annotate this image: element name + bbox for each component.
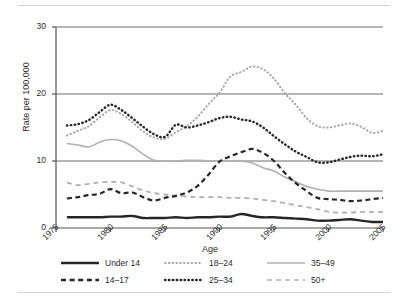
legend-items-grid: Under 14 18–24 35–49 14–17 25–34 50+: [60, 258, 360, 285]
y-tick-label-20: 20: [24, 88, 46, 98]
series-line-18-24: [67, 66, 383, 139]
series-line-14-17: [67, 149, 383, 201]
legend-item-18-24[interactable]: 18–24: [164, 258, 266, 268]
chart-figure: Rate per 100,000 Age Under 14 18–24 35–4…: [0, 0, 408, 308]
legend-label-35-49: 35–49: [311, 258, 335, 268]
legend-item-under-14[interactable]: Under 14: [60, 258, 164, 268]
series-line-50-: [67, 182, 383, 213]
legend-item-14-17[interactable]: 14–17: [60, 275, 164, 285]
legend-swatch-18-24: [164, 258, 204, 268]
legend-swatch-35-49: [266, 258, 306, 268]
legend-item-25-34[interactable]: 25–34: [164, 275, 266, 285]
legend-label-under-14: Under 14: [105, 258, 140, 268]
legend-swatch-under-14: [60, 258, 100, 268]
legend-swatch-50-plus: [266, 275, 306, 285]
legend-label-50-plus: 50+: [311, 275, 325, 285]
legend-item-50-plus[interactable]: 50+: [266, 275, 362, 285]
y-tick-label-10: 10: [24, 155, 46, 165]
legend-label-14-17: 14–17: [105, 275, 129, 285]
series-line-35-49: [67, 140, 383, 192]
legend-swatch-14-17: [60, 275, 100, 285]
y-tick-label-30: 30: [24, 21, 46, 31]
series-line-25-34: [67, 105, 383, 163]
legend-label-18-24: 18–24: [209, 258, 233, 268]
legend-item-35-49[interactable]: 35–49: [266, 258, 362, 268]
legend-label-25-34: 25–34: [209, 275, 233, 285]
legend-title: Age: [60, 244, 360, 254]
chart-legend: Age Under 14 18–24 35–49 14–17 25–34: [60, 244, 360, 285]
series-line-under-14: [67, 214, 383, 222]
legend-swatch-25-34: [164, 275, 204, 285]
